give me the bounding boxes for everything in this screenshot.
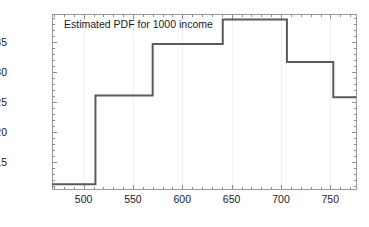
y-tick-label: 0.0020 xyxy=(0,127,7,138)
x-tick-label: 650 xyxy=(223,194,241,205)
y-tick-label: 0.0030 xyxy=(0,67,7,78)
pdf-step-path xyxy=(52,19,356,184)
chart-figure: Estimated PDF for 1000 income 0.00150.00… xyxy=(0,0,369,227)
step-curve xyxy=(52,14,357,190)
y-tick-label: 0.0035 xyxy=(0,37,7,48)
x-tick-label: 750 xyxy=(322,194,340,205)
x-tick-label: 700 xyxy=(272,194,290,205)
chart-title: Estimated PDF for 1000 income xyxy=(64,18,213,30)
y-tick-label: 0.0025 xyxy=(0,97,7,108)
x-tick-label: 550 xyxy=(124,194,142,205)
y-tick-label: 0.0015 xyxy=(0,157,7,168)
x-tick-label: 500 xyxy=(75,194,93,205)
x-tick-label: 600 xyxy=(174,194,192,205)
plot-area xyxy=(52,14,357,190)
